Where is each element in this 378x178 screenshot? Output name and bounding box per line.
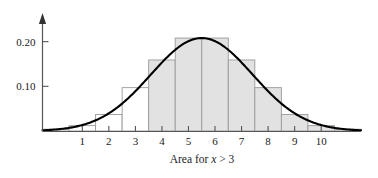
histogram-bar (255, 88, 282, 131)
x-axis-tick-label: 10 (316, 135, 328, 147)
x-axis-tick-label: 4 (159, 135, 165, 147)
y-axis-tick-label: 0.10 (16, 80, 36, 92)
histogram-bar (149, 60, 176, 131)
x-axis-tick-label: 5 (186, 135, 192, 147)
histogram-bar (175, 38, 202, 131)
x-axis-tick-label: 9 (292, 135, 298, 147)
histogram-bar (122, 88, 149, 131)
x-axis-tick-label: 7 (239, 135, 245, 147)
x-axis-tick-label: 6 (212, 135, 218, 147)
x-axis-tick-label: 2 (106, 135, 112, 147)
histogram-figure: 0.100.20 12345678910 Area for x > 3 (0, 0, 378, 178)
x-axis-tick-label: 8 (265, 135, 271, 147)
caption-text-part: > 3 (216, 153, 234, 165)
x-axis-tick-label: 1 (80, 135, 86, 147)
histogram-bar (202, 38, 229, 131)
normal-distribution-chart: 0.100.20 12345678910 Area for x > 3 (0, 0, 378, 178)
histogram-bar (228, 60, 255, 131)
chart-caption: Area for x > 3 (170, 153, 235, 165)
y-axis-tick-label: 0.20 (16, 36, 36, 48)
caption-text-part: Area for (170, 153, 212, 165)
x-axis-tick-label: 3 (133, 135, 139, 147)
